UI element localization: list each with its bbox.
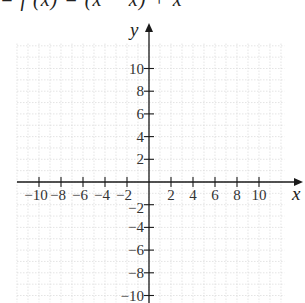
- x-tick-label: −4: [94, 187, 110, 203]
- x-tick-label: 10: [252, 187, 267, 203]
- x-tick-label: 4: [189, 187, 197, 203]
- y-tick-label: 2: [137, 151, 145, 167]
- x-tick-label: −6: [72, 187, 88, 203]
- x-tick-label: 2: [167, 187, 175, 203]
- y-tick-label: 10: [129, 61, 144, 77]
- y-tick-label: −4: [128, 219, 144, 235]
- x-tick-label: 6: [211, 187, 219, 203]
- y-tick-label: −10: [121, 288, 144, 303]
- x-tick-label: −8: [50, 187, 66, 203]
- coordinate-plane: −10−8−6−4−2246810 −10−8−6−4−2246810 x y: [0, 0, 305, 303]
- y-tick-label: 4: [137, 129, 145, 145]
- y-tick-label: 8: [137, 83, 145, 99]
- y-tick-label: −6: [128, 242, 144, 258]
- x-ticks: −10−8−6−4−2246810: [24, 177, 266, 203]
- y-axis-label: y: [128, 19, 139, 40]
- x-tick-label: 8: [233, 187, 241, 203]
- x-axis-label: x: [291, 183, 301, 204]
- y-tick-label: −2: [128, 200, 144, 216]
- grid: [17, 44, 284, 303]
- y-tick-label: 6: [137, 106, 145, 122]
- x-tick-label: −10: [24, 187, 47, 203]
- y-tick-label: −8: [128, 265, 144, 281]
